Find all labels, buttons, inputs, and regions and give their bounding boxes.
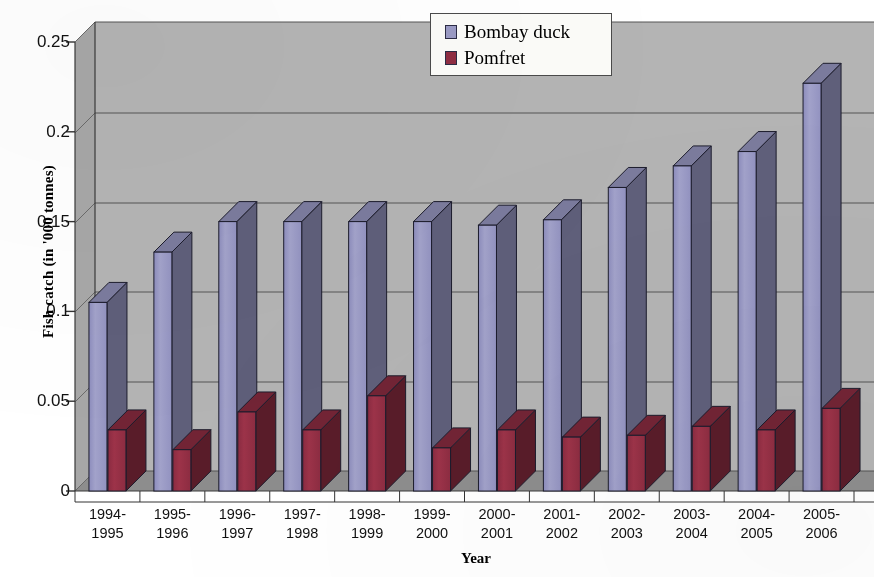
fish-catch-bar-chart: 00.050.10.150.20.25 1994-19951995-199619… <box>0 0 874 577</box>
x-tick-label-line: 2002 <box>529 524 594 543</box>
x-tick-label-line: 1998 <box>270 524 335 543</box>
x-tick-label-9: 2003-2004 <box>659 505 724 543</box>
x-tick-label-line: 1999- <box>400 505 465 524</box>
x-tick-label-3: 1997-1998 <box>270 505 335 543</box>
x-tick-label-line: 2003- <box>659 505 724 524</box>
x-axis-title: Year <box>0 550 874 567</box>
x-tick-label-line: 1997- <box>270 505 335 524</box>
x-tick-label-line: 2003 <box>594 524 659 543</box>
x-tick-label-line: 1998- <box>335 505 400 524</box>
x-tick-label-line: 2005- <box>789 505 854 524</box>
x-tick-label-line: 1996 <box>140 524 205 543</box>
x-tick-label-line: 1995 <box>75 524 140 543</box>
legend-swatch-icon <box>445 51 457 65</box>
x-tick-label-line: 2006 <box>789 524 854 543</box>
chart-legend: Bombay duckPomfret <box>430 13 612 76</box>
legend-label: Bombay duck <box>464 21 570 43</box>
legend-item-bombay-duck: Bombay duck <box>445 19 611 45</box>
legend-item-pomfret: Pomfret <box>445 45 611 71</box>
y-axis-title: Fish catch (in '000 tonnes) <box>40 102 57 402</box>
x-tick-label-1: 1995-1996 <box>140 505 205 543</box>
x-tick-label-10: 2004-2005 <box>724 505 789 543</box>
legend-swatch-icon <box>445 25 457 39</box>
x-tick-label-0: 1994-1995 <box>75 505 140 543</box>
x-tick-label-line: 1995- <box>140 505 205 524</box>
y-tick-labels: 00.050.10.150.20.25 <box>0 0 70 577</box>
x-tick-label-line: 1994- <box>75 505 140 524</box>
x-tick-label-6: 2000-2001 <box>465 505 530 543</box>
x-tick-label-line: 1997 <box>205 524 270 543</box>
x-tick-label-line: 2004 <box>659 524 724 543</box>
x-tick-label-7: 2001-2002 <box>529 505 594 543</box>
x-tick-label-line: 1999 <box>335 524 400 543</box>
plot-area <box>0 0 874 577</box>
x-tick-label-8: 2002-2003 <box>594 505 659 543</box>
x-tick-label-line: 2002- <box>594 505 659 524</box>
x-tick-label-4: 1998-1999 <box>335 505 400 543</box>
x-tick-label-line: 2004- <box>724 505 789 524</box>
x-tick-label-line: 2001- <box>529 505 594 524</box>
legend-label: Pomfret <box>464 47 525 69</box>
x-tick-label-line: 2001 <box>465 524 530 543</box>
y-tick-label-0: 0 <box>8 481 70 501</box>
x-tick-label-line: 2000- <box>465 505 530 524</box>
x-tick-label-11: 2005-2006 <box>789 505 854 543</box>
x-tick-label-5: 1999-2000 <box>400 505 465 543</box>
x-tick-label-line: 2005 <box>724 524 789 543</box>
x-tick-label-line: 2000 <box>400 524 465 543</box>
x-tick-label-2: 1996-1997 <box>205 505 270 543</box>
x-tick-label-line: 1996- <box>205 505 270 524</box>
y-tick-label-5: 0.25 <box>8 32 70 52</box>
